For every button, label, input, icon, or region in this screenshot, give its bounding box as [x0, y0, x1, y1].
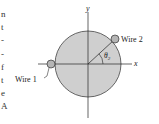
wire-2-label: Wire 2 [121, 35, 143, 44]
wire-2-icon [111, 35, 119, 43]
y-axis-label: y [85, 4, 90, 13]
x-axis-label: x [133, 59, 138, 68]
wire-1-label: Wire 1 [15, 75, 37, 84]
wire-diagram: y x Wire 2 Wire 1 θ2 [0, 0, 159, 124]
wire-1-icon [47, 60, 55, 68]
wire-1-leader [44, 68, 49, 78]
